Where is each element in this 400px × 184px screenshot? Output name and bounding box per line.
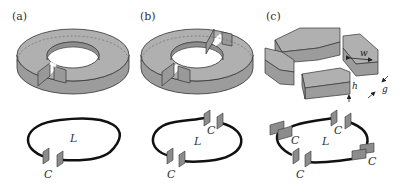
height-label: h	[352, 81, 358, 91]
split-ring-one-gap	[17, 29, 129, 94]
ring-four-gaps	[265, 28, 378, 99]
capacitor-label: C	[207, 124, 216, 137]
inductor-label: L	[69, 132, 77, 145]
capacitor-plate	[57, 151, 63, 167]
lc-circuit-a: L C	[28, 119, 120, 181]
figure-canvas: (a) L C (b)	[0, 0, 400, 184]
capacitor-label: C	[44, 168, 53, 181]
capacitor-plate	[305, 151, 311, 167]
split-ring-two-gaps	[141, 29, 253, 94]
capacitor-label: C	[291, 134, 300, 147]
capacitor-label: C	[167, 168, 176, 181]
capacitor-plate	[217, 113, 223, 129]
inductor-label: L	[193, 135, 201, 148]
capacitor-label: C	[296, 168, 305, 181]
panel-b: (b) L C C	[140, 10, 253, 181]
inductor-label: L	[321, 135, 329, 148]
capacitor-plate	[179, 151, 185, 167]
capacitor-plate	[167, 148, 173, 164]
panel-a-label: (a)	[12, 10, 27, 23]
panel-b-label: (b)	[140, 10, 156, 23]
panel-c: (c) w g h	[265, 10, 388, 181]
capacitor-plate	[293, 148, 299, 164]
gap-arrow-bottom	[368, 92, 375, 98]
width-label: w	[360, 48, 368, 58]
capacitor-plate	[345, 113, 351, 129]
gap-label: g	[382, 84, 388, 94]
capacitor-label: C	[334, 124, 343, 137]
capacitor-plate	[43, 148, 49, 164]
panel-c-label: (c)	[266, 10, 281, 23]
panel-a: (a) L C	[12, 10, 129, 181]
capacitor-label: C	[368, 155, 377, 168]
gap-arrow-top	[382, 76, 388, 82]
capacitor-plate	[352, 149, 366, 160]
lc-circuit-b: L C C	[153, 110, 241, 181]
lc-circuit-c: L C C C C	[270, 110, 377, 181]
